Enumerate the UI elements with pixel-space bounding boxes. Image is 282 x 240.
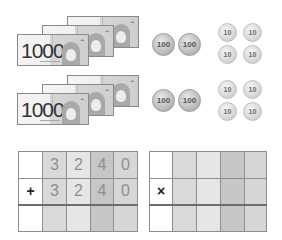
portrait-icon	[87, 92, 105, 116]
bill-mark: ᄉ	[80, 96, 85, 103]
coin-10: 10	[218, 102, 237, 121]
digit-cell[interactable]	[173, 152, 197, 179]
answer-cell[interactable]	[245, 205, 267, 232]
coin-10: 10	[243, 102, 262, 121]
digit-cell[interactable]	[197, 152, 221, 179]
result-operator-cell	[150, 205, 173, 232]
bill-mark: ᄉ	[80, 37, 85, 44]
portrait-icon	[62, 101, 80, 125]
answer-cell[interactable]	[91, 205, 114, 232]
addition-grid: 3 2 4 0 + 3 2 4 0	[18, 151, 138, 232]
digit-cell: 4	[91, 179, 114, 205]
coin-100: 100	[152, 33, 175, 56]
result-operator-cell	[19, 205, 43, 232]
banknote-1000: 1000 ᄉ	[17, 93, 89, 125]
answer-cell[interactable]	[197, 205, 221, 232]
bill-mark: ᄉ	[105, 28, 110, 35]
portrait-icon	[87, 33, 105, 57]
banknote-1000: 1000 ᄉ	[17, 34, 89, 66]
digit-cell: 3	[43, 152, 67, 179]
portrait-icon	[62, 42, 80, 66]
answer-cell[interactable]	[67, 205, 91, 232]
answer-cell[interactable]	[43, 205, 67, 232]
operator-cell	[19, 152, 43, 179]
digit-cell[interactable]	[245, 179, 267, 205]
multiplication-grid: ×	[149, 151, 267, 232]
coin-10: 10	[243, 80, 262, 99]
digit-cell: 3	[43, 179, 67, 205]
digit-cell[interactable]	[221, 152, 245, 179]
digit-cell: 0	[114, 152, 138, 179]
portrait-icon	[112, 83, 130, 107]
plus-sign: +	[19, 179, 43, 205]
times-sign: ×	[150, 179, 173, 205]
bill-strip	[40, 120, 60, 121]
digit-cell[interactable]	[197, 179, 221, 205]
portrait-icon	[112, 24, 130, 48]
answer-cell[interactable]	[114, 205, 138, 232]
coin-10: 10	[218, 80, 237, 99]
bill-strip	[40, 61, 60, 62]
answer-cell[interactable]	[221, 205, 245, 232]
digit-cell: 4	[91, 152, 114, 179]
digit-cell[interactable]	[173, 179, 197, 205]
operator-cell	[150, 152, 173, 179]
bill-mark: ᄉ	[130, 19, 135, 26]
bill-value: 1000	[21, 99, 64, 121]
bill-mark: ᄉ	[105, 87, 110, 94]
answer-cell[interactable]	[173, 205, 197, 232]
coin-10: 10	[243, 23, 262, 42]
coin-100: 100	[178, 89, 201, 112]
digit-cell[interactable]	[221, 179, 245, 205]
coin-100: 100	[178, 33, 201, 56]
coin-10: 10	[243, 45, 262, 64]
digit-cell[interactable]	[245, 152, 267, 179]
bill-mark: ᄉ	[130, 78, 135, 85]
coin-10: 10	[218, 23, 237, 42]
bill-value: 1000	[21, 40, 64, 62]
coin-10: 10	[218, 45, 237, 64]
digit-cell: 0	[114, 179, 138, 205]
digit-cell: 2	[67, 152, 91, 179]
digit-cell: 2	[67, 179, 91, 205]
coin-100: 100	[152, 89, 175, 112]
